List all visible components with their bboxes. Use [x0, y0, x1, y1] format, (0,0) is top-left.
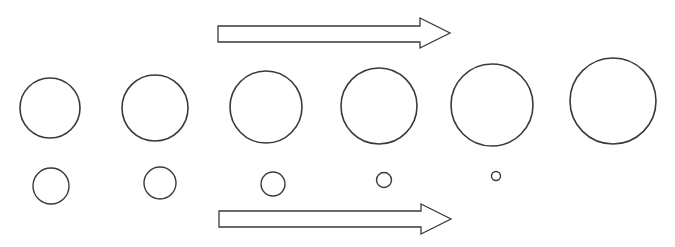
top-arrow-icon: [218, 18, 450, 48]
large-circle-2: [122, 75, 188, 141]
bottom-arrow-icon: [219, 204, 451, 234]
small-circle-4: [377, 173, 392, 188]
diagram-svg: [0, 0, 675, 247]
small-circle-5: [492, 172, 501, 181]
small-circle-3: [261, 172, 285, 196]
small-circle-1: [33, 168, 69, 204]
large-circle-3: [230, 71, 302, 143]
large-circles-row: [20, 58, 656, 146]
diagram-canvas: [0, 0, 675, 247]
small-circles-row: [33, 167, 501, 204]
large-circle-6: [570, 58, 656, 144]
small-circle-2: [144, 167, 176, 199]
large-circle-4: [341, 68, 417, 144]
large-circle-5: [451, 64, 533, 146]
large-circle-1: [20, 78, 80, 138]
